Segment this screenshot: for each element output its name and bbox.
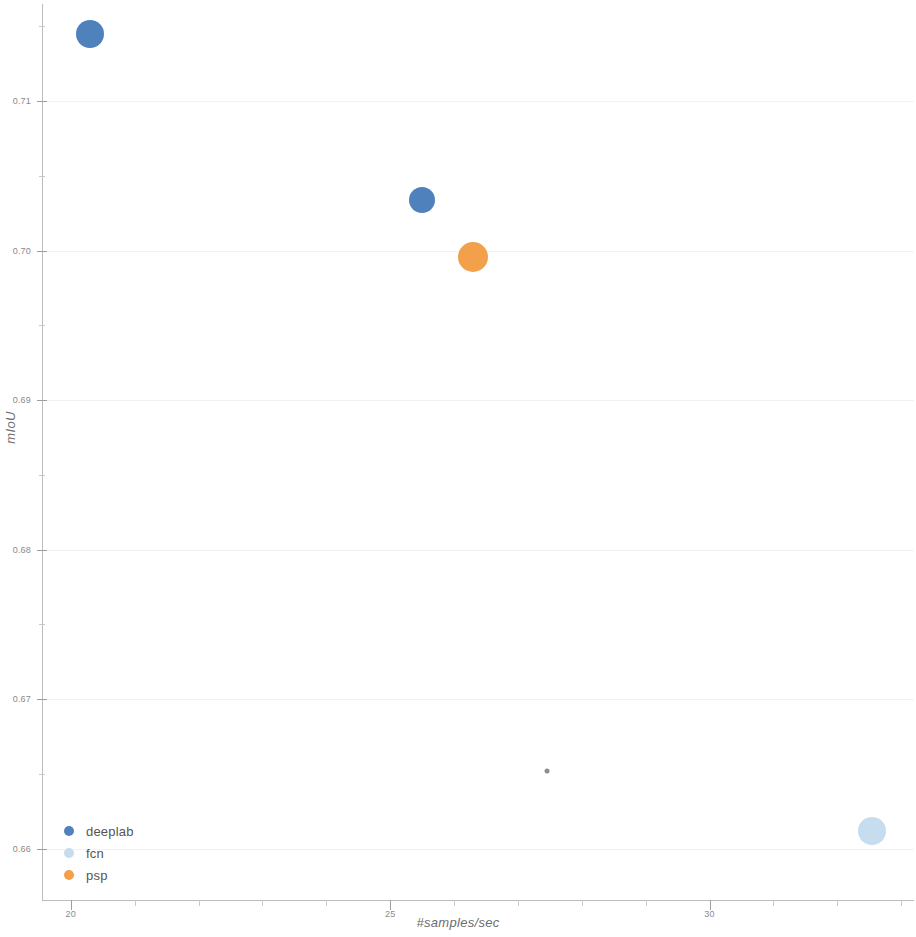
y-axis-line <box>42 4 43 901</box>
y-tick-label: 0.70 <box>1 246 31 256</box>
y-tick-mark <box>37 101 47 102</box>
x-tick-minor <box>837 900 838 906</box>
y-tick-mark <box>37 251 47 252</box>
data-point-marker-artifact <box>544 768 549 773</box>
y-tick-minor <box>39 475 45 476</box>
legend-label: psp <box>86 868 108 883</box>
y-tick-minor <box>39 325 45 326</box>
legend-swatch-icon <box>64 870 74 880</box>
x-tick-minor <box>199 900 200 906</box>
legend-swatch-icon <box>64 826 74 836</box>
y-tick-mark <box>37 400 47 401</box>
x-tick-minor <box>773 900 774 906</box>
legend: deeplabfcnpsp <box>64 820 134 886</box>
y-tick-mark <box>37 849 47 850</box>
data-point-deeplab <box>409 187 435 213</box>
y-tick-minor <box>39 26 45 27</box>
gridline-horizontal <box>42 550 914 551</box>
y-tick-label: 0.69 <box>1 395 31 405</box>
gridline-horizontal <box>42 400 914 401</box>
data-point-fcn <box>858 817 886 845</box>
y-tick-label: 0.68 <box>1 545 31 555</box>
y-tick-label: 0.67 <box>1 694 31 704</box>
data-point-psp <box>458 242 488 272</box>
x-tick-minor <box>582 900 583 906</box>
legend-item-deeplab[interactable]: deeplab <box>64 820 134 842</box>
y-tick-minor <box>39 176 45 177</box>
x-axis-title: #samples/sec <box>0 915 916 930</box>
legend-label: fcn <box>86 846 104 861</box>
x-tick-minor <box>135 900 136 906</box>
x-tick-minor <box>262 900 263 906</box>
y-axis-title: mIoU <box>3 411 18 443</box>
x-tick-minor <box>326 900 327 906</box>
legend-label: deeplab <box>86 824 134 839</box>
data-point-deeplab <box>76 20 104 48</box>
scatter-plot-figure: 0.710.700.690.680.670.66 202530 mIoU #sa… <box>0 0 916 937</box>
y-tick-label: 0.71 <box>1 96 31 106</box>
x-axis-line <box>42 900 914 901</box>
gridline-horizontal <box>42 101 914 102</box>
legend-item-psp[interactable]: psp <box>64 864 134 886</box>
legend-item-fcn[interactable]: fcn <box>64 842 134 864</box>
x-tick-minor <box>901 900 902 906</box>
y-tick-mark <box>37 699 47 700</box>
gridline-horizontal <box>42 849 914 850</box>
gridline-horizontal <box>42 699 914 700</box>
legend-swatch-icon <box>64 848 74 858</box>
x-tick-minor <box>518 900 519 906</box>
y-tick-mark <box>37 550 47 551</box>
y-tick-minor <box>39 624 45 625</box>
x-tick-minor <box>646 900 647 906</box>
y-tick-minor <box>39 774 45 775</box>
plot-area <box>42 4 914 901</box>
x-tick-minor <box>454 900 455 906</box>
y-tick-label: 0.66 <box>1 844 31 854</box>
